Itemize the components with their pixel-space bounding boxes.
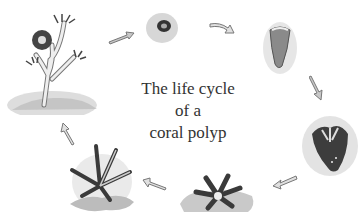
diagram-title: The life cycle of a coral polyp	[128, 78, 248, 144]
young-polyp-illustration	[178, 168, 258, 214]
egg-stage-illustration	[144, 10, 180, 46]
arrow-colony-to-egg-icon	[107, 30, 135, 46]
arrow-settling-to-young-icon	[272, 174, 298, 190]
title-line-2: of a	[128, 100, 248, 122]
polyp-tentacles-illustration	[66, 140, 136, 216]
coral-colony-illustration	[2, 5, 102, 115]
arrow-young-to-tentacles-icon	[142, 176, 168, 192]
planula-larva-illustration	[262, 20, 298, 76]
arrow-egg-to-larva-icon	[208, 20, 236, 36]
arrow-tentacles-to-colony-icon	[60, 122, 78, 146]
arrow-larva-to-settling-icon	[309, 74, 325, 102]
coral-life-cycle-diagram: The life cycle of a coral polyp	[0, 0, 363, 216]
title-line-1: The life cycle	[128, 78, 248, 100]
title-line-3: coral polyp	[128, 122, 248, 144]
settling-polyp-illustration	[298, 112, 358, 182]
